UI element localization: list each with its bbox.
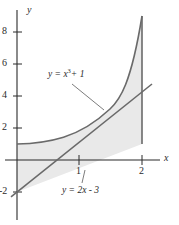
- x-axis-label: x: [164, 153, 168, 163]
- linear-label-leader: [82, 170, 85, 183]
- cubic-curve-label-base: y = x: [48, 69, 68, 79]
- figure-container: y x 8 6 4 2 -2 1 2 y = x3+ 1 y = 2x - 3: [0, 0, 179, 225]
- y-tick-label-8: 8: [2, 26, 7, 36]
- cubic-label-leader: [72, 84, 104, 110]
- linear-line-label: y = 2x - 3: [62, 186, 99, 196]
- y-tick-label-4: 4: [2, 90, 7, 100]
- x-tick-label-2: 2: [139, 166, 144, 176]
- cubic-curve-label-tail: + 1: [71, 69, 85, 79]
- cubic-curve-label: y = x3+ 1: [48, 70, 84, 80]
- x-tick-label-1: 1: [76, 166, 81, 176]
- y-tick-label-6: 6: [2, 58, 7, 68]
- y-axis-label: y: [27, 5, 31, 15]
- y-tick-label-2: 2: [2, 122, 7, 132]
- y-tick-label-minus-2: -2: [0, 186, 7, 196]
